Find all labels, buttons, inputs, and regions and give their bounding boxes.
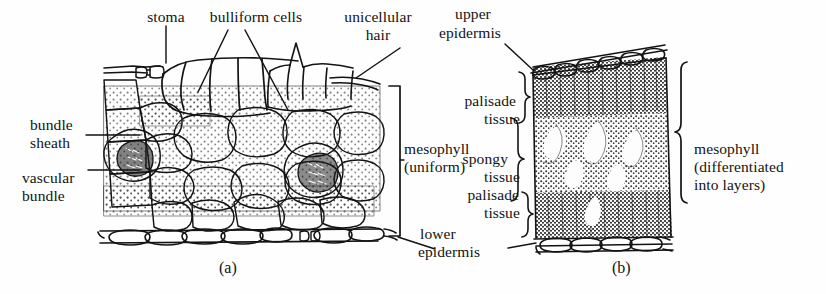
figure-canvas: stoma bulliform cells unicellular hair u…	[0, 0, 826, 294]
caption-panel-b: (b)	[612, 259, 631, 277]
label-bulliform-cells: bulliform cells	[186, 8, 326, 25]
label-upper-epidermis-line2: epidermis	[415, 24, 525, 41]
label-unicellular-hair-line1: unicellular	[330, 8, 426, 25]
label-unicellular-hair-line2: hair	[330, 26, 426, 43]
label-mesophyll-differentiated-line1: mesophyll	[694, 140, 759, 157]
label-mesophyll-differentiated-line3: into layers)	[694, 176, 765, 193]
label-palisade-tissue-bottom-line2: tissue	[484, 204, 520, 221]
label-spongy-tissue-line1: spongy	[396, 150, 508, 167]
label-bundle-sheath-line2: sheath	[30, 134, 70, 151]
label-mesophyll-differentiated-line2: (differentiated	[694, 158, 784, 175]
label-vascular-bundle-line1: vascular	[22, 169, 74, 186]
label-spongy-tissue-line2: tissue	[484, 168, 520, 185]
label-palisade-tissue-bottom-line1: palisade	[400, 186, 519, 203]
label-bundle-sheath-line1: bundle	[30, 116, 73, 133]
caption-panel-a: (a)	[219, 259, 237, 277]
label-vascular-bundle-line2: bundle	[22, 187, 65, 204]
label-palisade-tissue-top-line1: palisade	[400, 92, 516, 109]
label-lower-epidermis-line1: lower	[420, 225, 456, 242]
label-upper-epidermis-line1: upper	[430, 5, 516, 22]
label-lower-epidermis-line2: epidermis	[418, 243, 480, 260]
label-palisade-tissue-top-line2: tissue	[484, 110, 520, 127]
